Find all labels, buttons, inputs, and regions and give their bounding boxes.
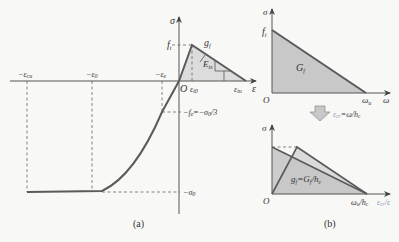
- transform-arrow: εcr=ω/hc: [310, 106, 361, 121]
- origin-label: O: [180, 83, 187, 94]
- ft-label: ft: [167, 39, 172, 51]
- x-axis-label-b: εcr/ε: [377, 198, 391, 207]
- neg-eps-cu-label: −εcu: [18, 70, 32, 79]
- origin-label-b-bottom: O: [263, 196, 270, 206]
- x-end-label: ωu/hc: [351, 198, 369, 207]
- diagram-canvas: σ ε O ft gf Ets εt0 εtu −εcu −ε0 −εe −fe…: [0, 0, 399, 242]
- sigma-label-b-bottom: σ: [262, 123, 267, 133]
- down-arrow-icon: [310, 106, 330, 121]
- panel-b-top: σ ft Gf O ωu ω: [262, 7, 390, 106]
- omega-axis-label: ω: [383, 95, 389, 105]
- panel-a: σ ε O ft gf Ets εt0 εtu −εcu −ε0 −εe −fe…: [10, 15, 256, 230]
- sigma-label-b-top: σ: [263, 7, 268, 17]
- gf-label: gf: [204, 37, 212, 49]
- transform-label: εcr=ω/hc: [333, 110, 361, 119]
- caption-b: (b): [324, 218, 336, 230]
- ft-label-b: ft: [262, 26, 267, 38]
- eps-tu-label: εtu: [234, 85, 242, 94]
- dashed-guides: [27, 45, 192, 192]
- panel-b-bottom: σ O gf=Gf/hc ωu/hc εcr/ε (b): [262, 123, 391, 230]
- eps-t0-label: εt0: [190, 85, 198, 94]
- sigma-label: σ: [170, 15, 176, 26]
- neg-eps-e-label: −εe: [155, 70, 167, 79]
- figure: σ ε O ft gf Ets εt0 εtu −εcu −ε0 −εe −fe…: [0, 0, 399, 242]
- caption-a: (a): [133, 218, 144, 230]
- omega-u-label: ωu: [362, 95, 371, 106]
- eps-label: ε: [252, 83, 256, 94]
- compression-curve: [27, 81, 179, 192]
- origin-label-b-top: O: [263, 95, 270, 105]
- neg-fe-label: −fe=−σ0/3: [183, 108, 217, 117]
- neg-eps-0-label: −ε0: [86, 70, 98, 79]
- neg-sigma0-label: −σ0: [183, 188, 195, 197]
